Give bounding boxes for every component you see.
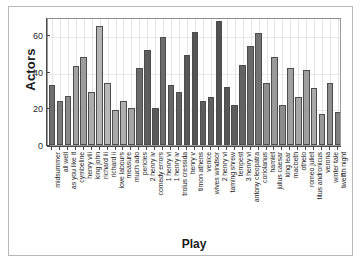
bar — [279, 105, 286, 145]
x-tick-mark — [194, 147, 195, 150]
x-tick-label: king john — [94, 152, 101, 179]
bar — [65, 96, 72, 145]
bar — [200, 101, 207, 145]
x-tick-mark — [202, 147, 203, 150]
x-tick-mark — [154, 147, 155, 150]
x-tick-mark — [186, 147, 187, 150]
bar — [247, 46, 254, 145]
x-tick-label: 3 henry vi — [245, 152, 252, 181]
x-tick-label: tempest — [237, 152, 244, 176]
x-tick-label: 2 henry iv — [149, 152, 156, 181]
x-tick-label: winter tale — [332, 152, 339, 183]
bar — [311, 88, 318, 145]
x-tick-mark — [51, 147, 52, 150]
x-tick-label: henry v — [189, 152, 196, 174]
bar — [128, 108, 135, 145]
x-tick-label: pericles — [141, 152, 148, 175]
x-tick-label: venice — [205, 152, 212, 172]
bar — [176, 92, 183, 145]
x-tick-mark — [250, 147, 251, 150]
x-tick-mark — [170, 147, 171, 150]
x-tick-mark — [138, 147, 139, 150]
bar — [120, 101, 127, 145]
x-tick-mark — [75, 147, 76, 150]
x-axis-title: Play — [47, 237, 341, 251]
y-tick-label: 0 — [23, 141, 43, 151]
x-tick-mark — [258, 147, 259, 150]
x-tick-label: hamlet — [269, 152, 276, 172]
bar — [160, 37, 167, 145]
bar — [184, 55, 191, 145]
x-tick-mark — [210, 147, 211, 150]
x-tick-mark — [266, 147, 267, 150]
y-tick: 60 — [24, 31, 50, 41]
x-tick-label: timon athens — [197, 152, 204, 191]
x-tick-label: wives windsor — [213, 152, 220, 194]
bar — [144, 50, 151, 145]
x-tick-label: romeo juliet — [308, 152, 315, 187]
y-tick-mark — [46, 108, 50, 109]
x-tick-label: 1 henry iv — [173, 152, 180, 181]
x-tick-mark — [313, 147, 314, 150]
x-tick-label: 1 henry vi — [165, 152, 172, 181]
bar — [255, 33, 262, 145]
x-tick-mark — [273, 147, 274, 150]
bar — [263, 83, 270, 145]
bar — [231, 105, 238, 145]
x-tick-mark — [115, 147, 116, 150]
x-tick-mark — [99, 147, 100, 150]
x-tick-label: henry viii — [86, 152, 93, 179]
bar — [271, 57, 278, 145]
x-tick-label: midsummer — [54, 152, 61, 188]
bar — [57, 101, 64, 145]
bar — [96, 26, 103, 145]
bar — [208, 97, 215, 145]
y-tick-label: 60 — [23, 31, 43, 41]
x-tick-mark — [146, 147, 147, 150]
x-tick-label: antony cleopatra — [253, 152, 260, 202]
x-tick-mark — [107, 147, 108, 150]
x-tick-mark — [305, 147, 306, 150]
bar — [112, 110, 119, 145]
bar — [295, 97, 302, 145]
x-tick-mark — [337, 147, 338, 150]
y-tick-mark — [46, 72, 50, 73]
bar — [104, 83, 111, 145]
x-tick-mark — [83, 147, 84, 150]
x-tick-label: taming shrew — [229, 152, 236, 192]
x-tick-label: all well — [62, 152, 69, 172]
bar — [73, 66, 80, 145]
x-tick-mark — [130, 147, 131, 150]
x-tick-label: othelo — [300, 152, 307, 170]
bar — [152, 108, 159, 145]
bar — [287, 68, 294, 145]
x-tick-mark — [321, 147, 322, 150]
x-tick-label: trolus cressida — [181, 152, 188, 196]
y-tick-label: 20 — [23, 104, 43, 114]
x-tick-label: macbeth — [292, 152, 299, 178]
x-tick-label: king lear — [284, 152, 291, 178]
x-tick-label: coriolanus — [261, 152, 268, 183]
x-tick-mark — [122, 147, 123, 150]
x-tick-label: verona — [324, 152, 331, 173]
x-tick-label: much ado — [133, 152, 140, 182]
x-tick-label: love labours — [118, 152, 125, 189]
y-tick-mark — [46, 35, 50, 36]
y-tick: 0 — [24, 141, 50, 151]
bar — [303, 70, 310, 145]
bar — [49, 85, 56, 145]
x-tick-mark — [234, 147, 235, 150]
x-tick-mark — [226, 147, 227, 150]
x-tick-label: as you like it — [70, 152, 77, 189]
bar — [216, 21, 223, 145]
x-tick-mark — [218, 147, 219, 150]
bar — [136, 68, 143, 145]
bar — [319, 114, 326, 145]
x-tick-mark — [178, 147, 179, 150]
y-tick-label: 40 — [23, 68, 43, 78]
y-tick: 20 — [24, 104, 50, 114]
bar — [335, 112, 341, 145]
x-tick-mark — [242, 147, 243, 150]
x-tick-mark — [289, 147, 290, 150]
x-tick-label: twelfth night — [340, 152, 347, 188]
